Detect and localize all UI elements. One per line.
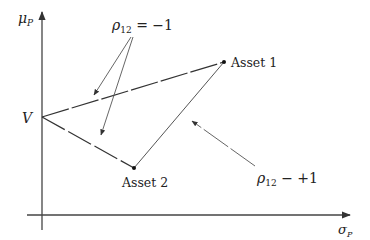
rho-plus-label: ρ12 − +1 — [256, 170, 318, 188]
rho-minus-arrow-2 — [101, 37, 133, 135]
rho-minus-label: ρ12 = −1 — [111, 17, 173, 35]
asset1-to-asset2-line — [134, 62, 224, 168]
x-axis-label: σP — [338, 222, 353, 239]
portfolio-diagram: μP σP V Asset 1 Asset 2 ρ12 = −1 ρ12 − +… — [0, 0, 370, 240]
asset2-label: Asset 2 — [121, 175, 168, 190]
y-axis-label: μP — [18, 10, 34, 28]
v-to-asset1-line — [42, 62, 224, 117]
v-to-asset2-line — [42, 117, 134, 168]
asset1-point — [222, 60, 226, 64]
rho-minus-arrow-1 — [94, 37, 131, 95]
asset1-label: Asset 1 — [230, 55, 277, 70]
asset2-point — [132, 166, 136, 170]
v-label: V — [22, 110, 34, 126]
rho-plus-arrow — [192, 121, 255, 166]
